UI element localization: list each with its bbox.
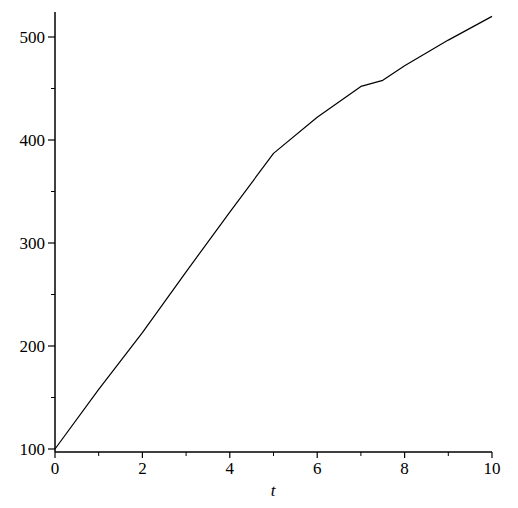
x-tick-label: 10 — [484, 459, 501, 478]
x-axis-label: t — [271, 481, 277, 500]
data-series — [55, 16, 492, 449]
x-tick-label: 8 — [400, 459, 409, 478]
y-tick-label: 500 — [20, 28, 46, 47]
x-axis: 0246810 — [51, 452, 501, 478]
y-tick-label: 300 — [20, 234, 46, 253]
x-tick-label: 6 — [313, 459, 322, 478]
y-tick-label: 200 — [20, 337, 46, 356]
y-axis: 100200300400500 — [20, 12, 56, 459]
x-tick-label: 4 — [226, 459, 235, 478]
line-chart: 100200300400500 0246810 t — [0, 0, 518, 508]
x-tick-label: 0 — [51, 459, 60, 478]
line-series — [55, 16, 492, 449]
y-tick-label: 100 — [20, 440, 46, 459]
x-tick-label: 2 — [138, 459, 147, 478]
y-tick-label: 400 — [20, 131, 46, 150]
